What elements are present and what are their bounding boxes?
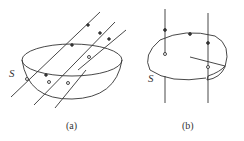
loop-boundary (148, 33, 228, 80)
hemisphere-rim (22, 44, 122, 76)
surface-label-a: S (9, 67, 15, 79)
field-line (78, 30, 126, 70)
figure-b (148, 9, 228, 103)
physics-diagram (0, 0, 244, 141)
caption-a: (a) (66, 120, 77, 131)
caption-b: (b) (182, 120, 194, 131)
surface-label-b: S (148, 72, 154, 84)
figure-a (11, 12, 126, 108)
